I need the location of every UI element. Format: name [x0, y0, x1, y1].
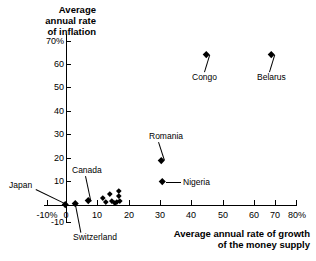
x-tick-neg10 — [47, 200, 48, 205]
annotation-belarus: Belarus — [257, 73, 286, 82]
x-axis-title-line1: Average annual rate of growth — [150, 228, 310, 239]
y-tick-label-20: 20 — [22, 154, 64, 163]
annotation-romania: Romania — [149, 132, 183, 141]
x-axis-line — [44, 205, 297, 206]
x-tick-label-0: 0 — [56, 211, 76, 220]
annotation-japan: Japan — [9, 181, 32, 190]
y-tick-label-50: 50 — [22, 83, 64, 92]
y-tick-60 — [66, 64, 71, 65]
annotation-switzerland: Switzerland — [73, 233, 117, 242]
x-tick-label-80: 80% — [281, 211, 313, 220]
x-axis-title-line2: of the money supply — [150, 239, 310, 250]
y-tick-label-60: 60 — [22, 60, 64, 69]
x-tick-label-10: 10 — [85, 211, 109, 220]
y-axis-title: Average annual rate of inflation — [4, 4, 96, 37]
y-tick-20 — [66, 158, 71, 159]
leader-line-nigeria — [166, 182, 181, 183]
x-tick-40 — [191, 200, 192, 205]
y-axis-title-line1: Average — [4, 4, 96, 15]
y-tick-label-40: 40 — [22, 107, 64, 116]
x-tick-20 — [129, 200, 130, 205]
y-tick-70 — [66, 41, 71, 42]
annotation-nigeria: Nigeria — [183, 178, 210, 187]
leader-line-congo — [204, 55, 210, 73]
x-tick-30 — [160, 200, 161, 205]
x-tick-label-40: 40 — [179, 211, 203, 220]
y-tick-40 — [66, 111, 71, 112]
y-tick-neg10 — [66, 222, 71, 223]
x-tick-60 — [254, 200, 255, 205]
x-tick-label-50: 50 — [211, 211, 235, 220]
x-tick-70 — [275, 200, 276, 205]
x-tick-label-30: 30 — [148, 211, 172, 220]
x-tick-10 — [97, 200, 98, 205]
y-axis-line — [66, 34, 67, 222]
y-tick-10 — [66, 181, 71, 182]
y-axis-title-line2: annual rate — [4, 15, 96, 26]
y-tick-30 — [66, 134, 71, 135]
x-axis-title: Average annual rate of growth of the mon… — [150, 228, 310, 250]
x-tick-50 — [223, 200, 224, 205]
y-tick-50 — [66, 87, 71, 88]
y-tick-label-30: 30 — [22, 130, 64, 139]
annotation-congo: Congo — [192, 73, 217, 82]
x-tick-label-20: 20 — [117, 211, 141, 220]
annotation-canada: Canada — [72, 166, 102, 175]
x-tick-80 — [296, 200, 297, 205]
leader-line-japan — [36, 189, 66, 204]
leader-line-belarus — [269, 55, 275, 73]
y-tick-label-70: 70% — [22, 37, 64, 46]
scatter-chart: Average annual rate of inflation Average… — [0, 0, 316, 261]
